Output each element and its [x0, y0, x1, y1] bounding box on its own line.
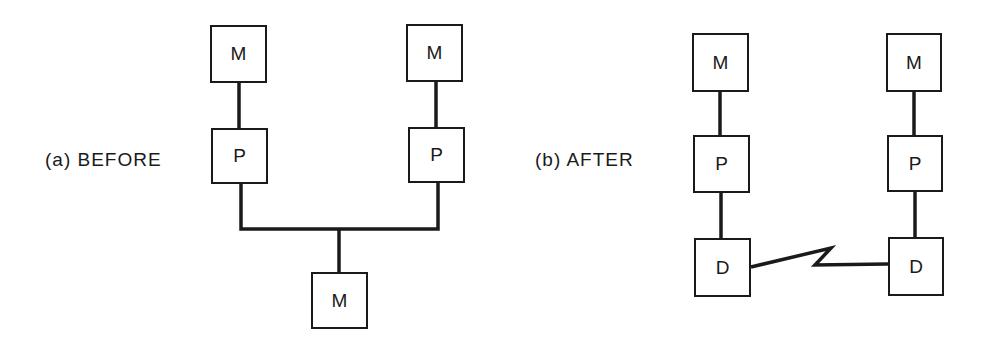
node-device-b2: D — [888, 237, 944, 296]
node-memory-a3-shared: M — [311, 272, 368, 329]
node-memory-a2: M — [406, 24, 463, 82]
node-memory-a1: M — [210, 25, 267, 83]
node-processor-a2: P — [408, 127, 465, 183]
node-processor-b1: P — [693, 135, 750, 193]
node-memory-b2: M — [886, 33, 942, 92]
node-processor-b2: P — [887, 135, 943, 192]
zigzag-link-d1-d2 — [751, 248, 888, 267]
node-processor-a1: P — [211, 128, 268, 184]
panel-a-label: (a) BEFORE — [45, 149, 162, 171]
node-memory-b1: M — [692, 33, 749, 92]
connector-lines — [0, 0, 991, 349]
panel-b-label: (b) AFTER — [535, 149, 634, 171]
node-device-b1: D — [694, 238, 751, 297]
bus-a — [241, 183, 438, 229]
